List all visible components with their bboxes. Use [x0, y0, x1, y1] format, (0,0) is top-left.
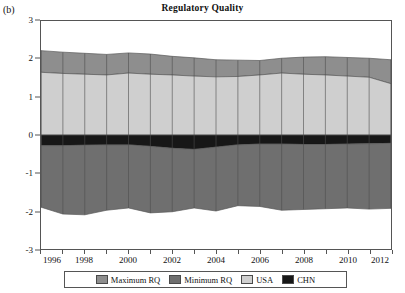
y-tick-label: 0	[29, 130, 34, 140]
y-tick-label: -1	[26, 168, 34, 178]
y-axis: -3-2-10123	[0, 20, 40, 250]
legend-label: Maximum RQ	[111, 275, 160, 285]
x-tick-mark	[326, 250, 327, 254]
x-tick-label: 2010	[339, 255, 357, 265]
y-tick-label: 3	[29, 15, 34, 25]
legend-item-maximum-rq[interactable]: Maximum RQ	[96, 275, 160, 285]
legend-label: USA	[256, 275, 273, 285]
x-tick-mark	[304, 250, 305, 254]
x-tick-mark	[62, 250, 63, 254]
x-tick-label: 1998	[75, 255, 93, 265]
y-tick-label: 2	[29, 53, 34, 63]
chart-title: Regulatory Quality	[0, 3, 405, 13]
x-tick-mark	[370, 250, 371, 254]
legend-swatch-icon	[241, 275, 253, 284]
x-tick-mark	[106, 250, 107, 254]
x-tick-mark	[40, 250, 41, 254]
x-tick-mark	[194, 250, 195, 254]
legend-label: Minimum RQ	[184, 275, 232, 285]
legend-swatch-icon	[96, 275, 108, 284]
x-tick-mark	[172, 250, 173, 254]
y-tick-label: 1	[29, 92, 34, 102]
legend-item-usa[interactable]: USA	[241, 275, 273, 285]
x-tick-label: 1996	[43, 255, 61, 265]
chart-legend: Maximum RQMinimum RQUSACHN	[64, 271, 347, 288]
x-tick-label: 2000	[119, 255, 137, 265]
x-tick-label: 2008	[295, 255, 313, 265]
x-tick-mark	[150, 250, 151, 254]
x-tick-mark	[84, 250, 85, 254]
y-tick-label: -3	[26, 245, 34, 255]
plot-area	[40, 20, 392, 250]
area-chart-svg	[41, 21, 391, 249]
x-tick-mark	[348, 250, 349, 254]
x-tick-mark	[260, 250, 261, 254]
legend-swatch-icon	[169, 275, 181, 284]
x-tick-mark	[238, 250, 239, 254]
x-tick-label: 2004	[207, 255, 225, 265]
legend-swatch-icon	[282, 275, 294, 284]
x-tick-mark	[128, 250, 129, 254]
x-tick-mark	[392, 250, 393, 254]
legend-item-minimum-rq[interactable]: Minimum RQ	[169, 275, 232, 285]
x-tick-mark	[216, 250, 217, 254]
legend-item-chn[interactable]: CHN	[282, 275, 315, 285]
y-tick-label: -2	[26, 207, 34, 217]
legend-label: CHN	[297, 275, 315, 285]
x-tick-mark	[282, 250, 283, 254]
x-tick-label: 2012	[371, 255, 389, 265]
x-tick-label: 2002	[163, 255, 181, 265]
x-tick-label: 2006	[251, 255, 269, 265]
figure-panel: (b) Regulatory Quality -3-2-10123 199619…	[0, 0, 405, 293]
